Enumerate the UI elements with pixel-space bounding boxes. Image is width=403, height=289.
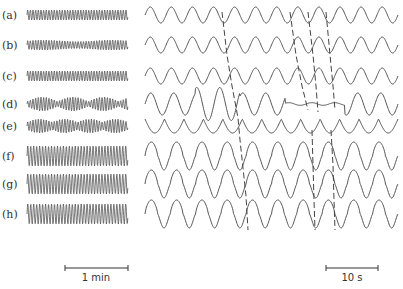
trace	[145, 170, 398, 198]
left-traces-compressed	[27, 10, 128, 224]
phase-dashed-line	[290, 12, 308, 110]
left-scale-bar: 1 min	[65, 265, 128, 283]
trace	[145, 119, 398, 133]
panel-label: (g)	[2, 178, 18, 191]
phase-dashed-line	[308, 12, 318, 112]
phase-dashed-line	[326, 12, 335, 110]
panel-label: (f)	[2, 150, 15, 163]
panel-label: (h)	[2, 208, 18, 221]
left-scale-label: 1 min	[82, 272, 110, 283]
panel-label: (c)	[2, 70, 17, 83]
phase-dashed-line	[222, 12, 248, 230]
trace	[145, 37, 398, 53]
trace	[145, 88, 398, 121]
trace	[27, 97, 128, 111]
panel-label: (e)	[2, 120, 17, 133]
trace	[27, 10, 128, 20]
trace	[145, 142, 398, 170]
right-traces-expanded	[145, 7, 398, 228]
trace	[145, 7, 398, 23]
trace	[27, 71, 128, 81]
panel-label: (b)	[2, 39, 18, 52]
panel-label: (a)	[2, 9, 17, 22]
trace	[145, 68, 398, 84]
trace	[27, 40, 128, 50]
panel-label: (d)	[2, 98, 18, 111]
trace	[27, 119, 128, 133]
trace	[27, 204, 128, 224]
trace	[145, 200, 398, 228]
phase-dashed-line	[312, 130, 315, 230]
panel-labels: (a)(b)(c)(d)(e)(f)(g)(h)	[2, 9, 18, 221]
oscillation-figure: (a)(b)(c)(d)(e)(f)(g)(h) 1 min 10 s	[0, 0, 403, 289]
trace	[27, 174, 128, 194]
trace	[27, 146, 128, 166]
right-scale-label: 10 s	[341, 272, 362, 283]
right-scale-bar: 10 s	[326, 265, 378, 283]
